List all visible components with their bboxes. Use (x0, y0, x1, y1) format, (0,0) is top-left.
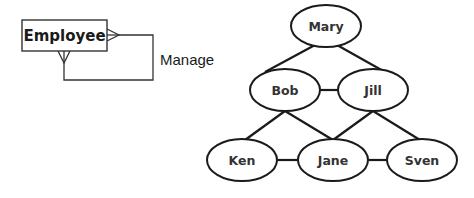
edge-bob-ken (245, 111, 285, 140)
node-mary: Mary (291, 5, 361, 47)
node-jane-label: Jane (317, 153, 348, 168)
crows-foot-bottom-icon (58, 51, 70, 63)
node-ken: Ken (207, 139, 277, 181)
er-diagram: Employee Manage (22, 20, 214, 80)
employee-entity-label: Employee (23, 27, 105, 45)
node-jill: Jill (338, 69, 408, 111)
node-sven-label: Sven (405, 153, 440, 168)
edge-bob-jane (285, 111, 333, 140)
node-mary-label: Mary (308, 19, 343, 34)
node-jill-label: Jill (363, 83, 382, 98)
edge-mary-jill (337, 45, 385, 72)
edge-jill-jane (333, 111, 373, 140)
node-jane: Jane (298, 139, 368, 181)
graph-nodes: Mary Bob Jill Ken Jane Sven (207, 5, 457, 181)
node-bob: Bob (250, 69, 320, 111)
node-bob-label: Bob (271, 83, 298, 98)
node-ken-label: Ken (229, 153, 256, 168)
edge-mary-bob (265, 45, 315, 72)
edge-jill-sven (373, 111, 420, 140)
crows-foot-right-icon (107, 29, 119, 41)
node-sven: Sven (387, 139, 457, 181)
diagram-canvas: Employee Manage Mary Bob Jill Ken (0, 0, 474, 198)
manage-relationship-label: Manage (160, 51, 214, 68)
